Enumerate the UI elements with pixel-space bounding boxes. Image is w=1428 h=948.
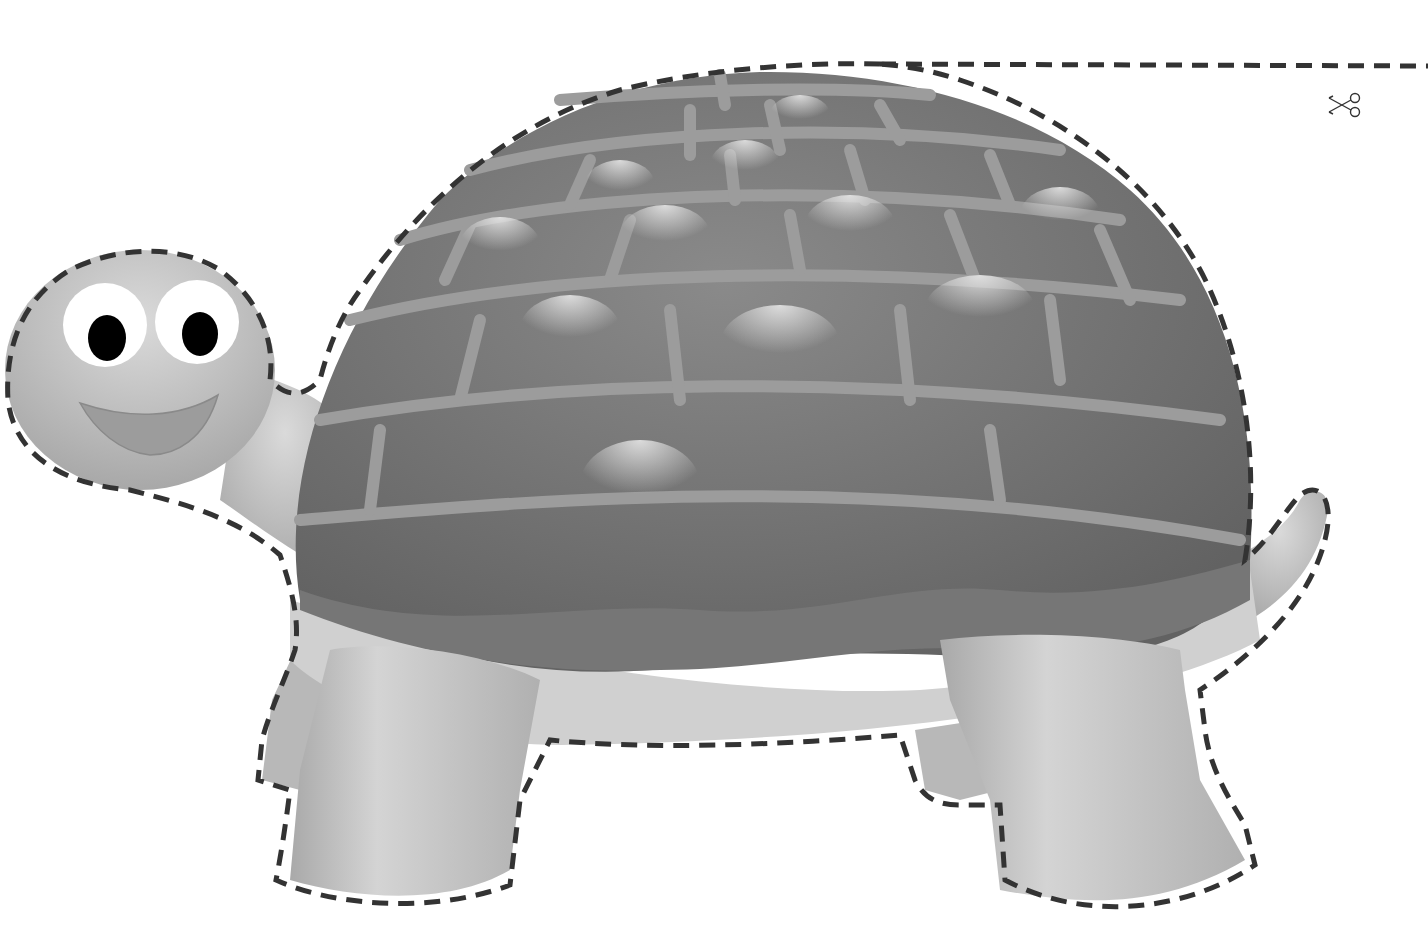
left-pupil	[88, 315, 126, 361]
top-cut-line	[880, 64, 1428, 66]
right-pupil	[182, 312, 218, 356]
scissors-icon	[1325, 90, 1365, 120]
front-right-leg	[940, 635, 1245, 901]
front-left-leg	[290, 646, 540, 895]
turtle-illustration	[0, 0, 1428, 948]
cutout-page	[0, 0, 1428, 948]
